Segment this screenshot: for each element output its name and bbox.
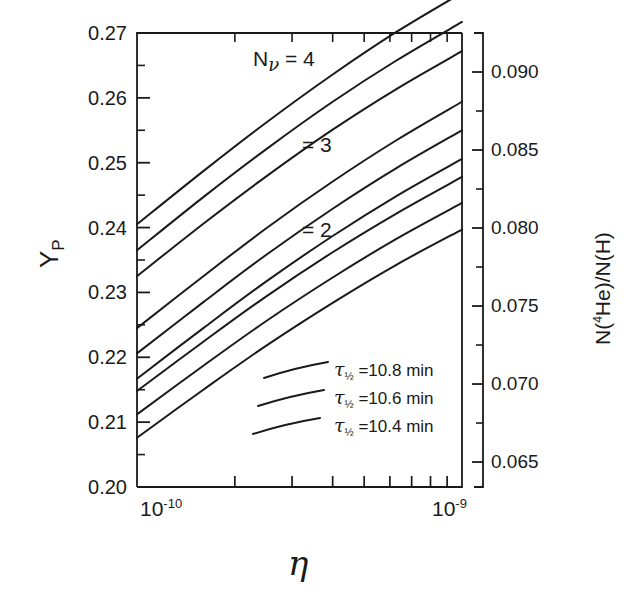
legend-item-2: τ½ =10.6 min: [334, 388, 434, 410]
y-axis-title: YP: [36, 239, 67, 268]
annotation-nnu-4: Nν = 4: [253, 48, 315, 74]
annotation-nnu-3: = 3: [302, 134, 332, 155]
chart-figure: 0.200.210.220.230.240.250.260.27 0.0650.…: [0, 0, 635, 615]
curve-2-10_6: [137, 203, 462, 414]
x-tick-label-low: 10-10: [140, 497, 182, 519]
y2-tick-label: 0.065: [491, 452, 571, 471]
curve-2-10_8: [137, 177, 462, 391]
y2-tick-label: 0.090: [491, 62, 571, 81]
y-tick-label: 0.25: [55, 153, 127, 173]
y-tick-label: 0.26: [55, 88, 127, 108]
curve-4-10_4: [137, 51, 462, 276]
legend-sample-line-2: [258, 390, 324, 406]
y2-tick-label: 0.085: [491, 140, 571, 159]
legend-item-3: τ½ =10.4 min: [334, 416, 434, 438]
y2-tick-label: 0.080: [491, 218, 571, 237]
x-tick-label-high: 10-9: [432, 497, 467, 519]
y-tick-label: 0.22: [55, 347, 127, 367]
curve-3-10_6: [137, 130, 462, 353]
y-tick-label: 0.23: [55, 282, 127, 302]
legend-sample-line-1: [264, 362, 328, 378]
legend-sample-lines: [253, 362, 328, 434]
curve-3-10_8: [137, 102, 462, 328]
y-tick-label: 0.24: [55, 218, 127, 238]
y2-tick-label: 0.075: [491, 296, 571, 315]
y2-tick-label: 0.070: [491, 374, 571, 393]
annotation-nnu-2: = 2: [302, 219, 332, 240]
legend-sample-line-3: [253, 418, 320, 434]
y-tick-label: 0.20: [55, 477, 127, 497]
curve-3-10_4: [137, 159, 462, 379]
x-axis-title: η: [288, 546, 308, 580]
y-tick-label: 0.21: [55, 412, 127, 432]
legend-item-1: τ½ =10.8 min: [334, 360, 434, 382]
y-tick-label: 0.27: [55, 23, 127, 43]
y2-axis-title: N(4He)/N(H): [592, 232, 613, 345]
